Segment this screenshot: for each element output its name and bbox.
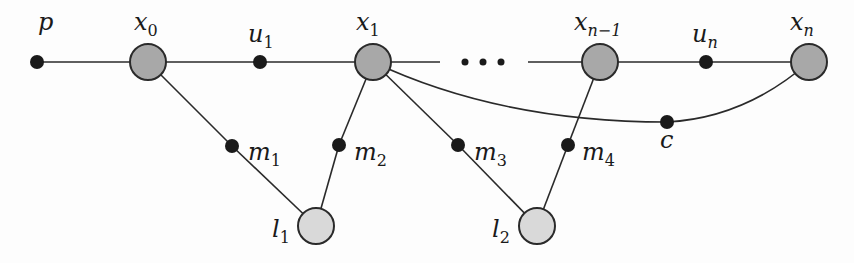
diagram-canvas: px0u1x1xn−1unxnm1m2m3m4cl1l2 [0, 0, 854, 263]
node-label-l2: l2 [492, 215, 510, 247]
node-xn-1 [582, 44, 618, 80]
node-label-m2: m2 [354, 138, 387, 170]
node-x0 [130, 44, 166, 80]
nodes-layer [30, 44, 827, 244]
node-label-un: un [692, 20, 718, 52]
node-label-u1: u1 [248, 20, 274, 52]
node-u1 [253, 55, 267, 69]
node-label-m1: m1 [248, 138, 281, 170]
node-xn [791, 44, 827, 80]
node-label-xn: xn [790, 8, 814, 40]
node-label-c: c [660, 126, 673, 154]
graph-diagram: px0u1x1xn−1unxnm1m2m3m4cl1l2 [0, 0, 854, 263]
node-label-xn-1: xn−1 [574, 8, 621, 40]
node-x1 [355, 44, 391, 80]
node-un [699, 55, 713, 69]
node-m4 [561, 138, 575, 152]
labels-layer: px0u1x1xn−1unxnm1m2m3m4cl1l2 [38, 8, 814, 247]
edge-c-xn [667, 62, 809, 122]
ellipsis-dot-icon [480, 59, 487, 66]
node-l2 [519, 208, 555, 244]
node-label-m4: m4 [582, 138, 615, 170]
node-m1 [225, 139, 239, 153]
node-label-x0: x0 [134, 8, 158, 40]
ellipsis-dots [462, 59, 505, 66]
node-m3 [451, 138, 465, 152]
ellipsis-dot-icon [462, 59, 469, 66]
node-label-x1: x1 [356, 8, 380, 40]
node-label-m3: m3 [474, 138, 507, 170]
node-label-l1: l1 [272, 215, 290, 247]
node-m2 [332, 138, 346, 152]
node-l1 [298, 208, 334, 244]
edges-layer [37, 62, 809, 226]
node-label-p: p [38, 8, 53, 36]
node-p [30, 55, 44, 69]
ellipsis-dot-icon [498, 59, 505, 66]
edge-x1-c [373, 62, 667, 122]
